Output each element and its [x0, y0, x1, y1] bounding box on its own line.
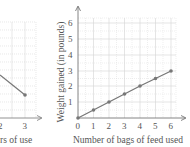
data-point: [138, 84, 142, 88]
y-tick: 4: [68, 50, 73, 60]
x-tick: 4: [138, 121, 143, 131]
right-chart: 0 1 2 3 4 5 6 1 2 3 4 5 6 Weight gained …: [56, 6, 186, 145]
right-y-ticks: 1 2 3 4 5 6: [68, 18, 73, 107]
left-x-tick-2: 2: [0, 121, 3, 131]
y-tick: 6: [68, 18, 73, 28]
data-point: [76, 116, 80, 120]
x-tick: 1: [91, 121, 96, 131]
x-tick: 2: [107, 121, 112, 131]
right-y-axis-label: Weight gained (in pounds): [56, 22, 67, 123]
data-point: [154, 77, 158, 81]
data-point: [169, 69, 173, 73]
y-tick: 5: [68, 34, 73, 44]
right-grid-major: [78, 18, 176, 118]
y-tick: 1: [68, 97, 73, 107]
x-tick: 0: [76, 121, 81, 131]
chart-canvas: 2 3 rs of use: [0, 0, 190, 147]
left-data-point: [23, 93, 27, 97]
x-tick: 5: [153, 121, 158, 131]
right-x-ticks: 0 1 2 3 4 5 6: [76, 121, 174, 131]
left-x-axis-label: rs of use: [0, 135, 32, 145]
left-x-tick-3: 3: [23, 121, 28, 131]
y-tick: 3: [68, 66, 73, 76]
data-point: [123, 92, 127, 96]
right-x-axis-label: Number of bags of feed used: [73, 135, 183, 145]
left-chart: 2 3 rs of use: [0, 22, 42, 145]
x-tick: 3: [122, 121, 127, 131]
right-grid-minor: [78, 18, 176, 118]
left-grid: [0, 22, 36, 118]
y-tick: 2: [68, 81, 73, 91]
x-tick: 6: [169, 121, 174, 131]
data-point: [92, 108, 96, 112]
data-point: [107, 100, 111, 104]
